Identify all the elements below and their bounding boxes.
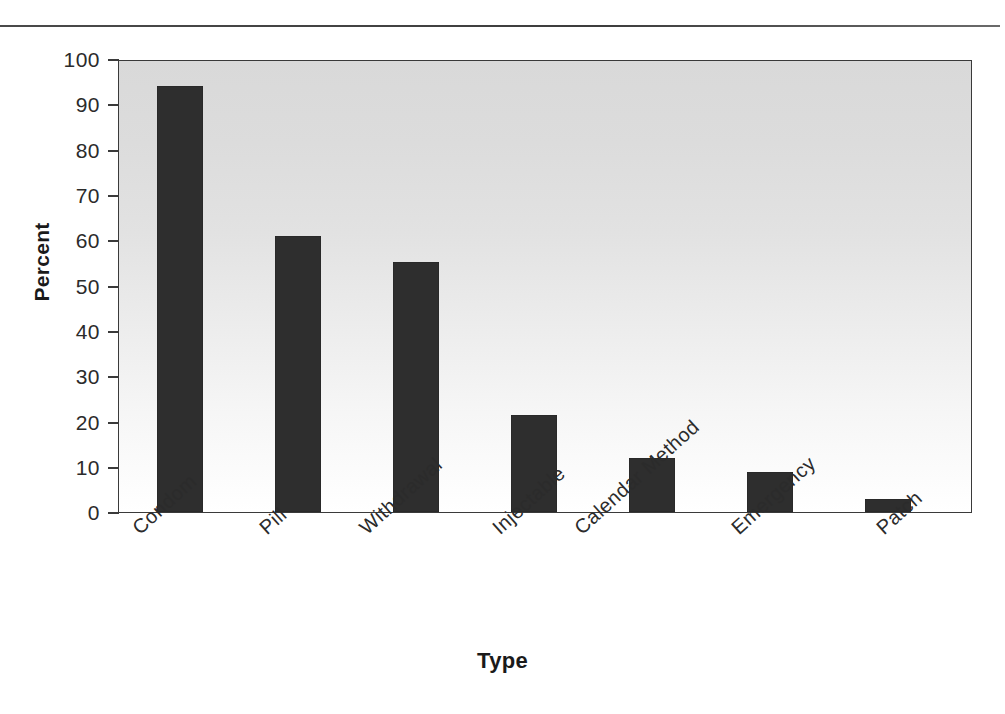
page-divider-rule <box>0 25 1000 27</box>
y-axis-tick-labels: 100 90 80 70 60 50 40 30 20 10 0 <box>40 0 100 714</box>
y-tick-label: 40 <box>76 321 100 342</box>
x-axis-title: Type <box>0 648 1005 674</box>
y-tick-label: 10 <box>76 457 100 478</box>
y-tick-label: 100 <box>63 49 100 70</box>
bar-pill <box>275 236 321 512</box>
plot-area <box>118 60 972 513</box>
y-tick-label: 90 <box>76 94 100 115</box>
bar-condom <box>157 86 203 512</box>
y-tick-label: 60 <box>76 230 100 251</box>
y-tick-label: 70 <box>76 185 100 206</box>
bar-chart-figure: Percent 100 90 80 70 60 50 40 30 20 10 0 <box>0 0 1005 714</box>
y-tick-label: 0 <box>88 502 100 523</box>
y-tick-label: 20 <box>76 412 100 433</box>
y-tick-label: 50 <box>76 276 100 297</box>
y-tick-label: 30 <box>76 366 100 387</box>
y-tick-label: 80 <box>76 140 100 161</box>
